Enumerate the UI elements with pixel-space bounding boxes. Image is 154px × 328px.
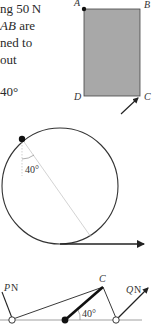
angle-label-40: 40°	[82, 308, 96, 319]
rod-cb	[103, 287, 116, 318]
vertex-label-c: C	[144, 91, 151, 102]
vertex-label-d: D	[73, 91, 82, 102]
figures: A B C D 40° P N C Q N 40°	[0, 0, 154, 328]
hinge-middle	[62, 317, 69, 324]
point-c-label: C	[99, 273, 106, 284]
hinge-right	[113, 317, 119, 323]
force-q-label: Q	[126, 284, 134, 295]
figure-circle: 40°	[2, 128, 144, 244]
figure-framework: P N C Q N 40°	[0, 273, 148, 323]
hinge-left	[9, 317, 15, 323]
hoop-circle	[2, 128, 118, 244]
lamina-rectangle	[84, 9, 140, 96]
force-p-line	[2, 292, 12, 318]
vertex-label-a: A	[73, 0, 81, 8]
pivot-point-a	[82, 7, 86, 11]
force-arrow-at-c	[121, 98, 138, 114]
force-p-unit: N	[11, 282, 18, 293]
angle-arc	[22, 155, 34, 159]
diameter-line	[22, 139, 91, 237]
particle	[19, 136, 25, 142]
vertex-label-b: B	[144, 0, 150, 10]
figure-rectangle: A B C D	[73, 0, 151, 114]
angle-label: 40°	[25, 164, 39, 175]
force-q-unit: N	[134, 284, 141, 295]
angle-arc-40	[78, 310, 80, 320]
force-p-label: P	[3, 282, 10, 293]
